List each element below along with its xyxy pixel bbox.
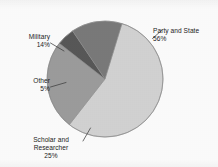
slice-label-scholar-and-researcher-line2: Researcher: [20, 144, 82, 152]
slice-label-military-value: 14%: [4, 41, 50, 49]
slice-label-other: Other 5%: [4, 77, 50, 93]
slice-label-scholar-and-researcher-line1: Scholar and: [33, 136, 69, 143]
slice-label-scholar-and-researcher-value: 25%: [20, 152, 82, 160]
slice-label-party-and-state-name: Party and State: [153, 27, 199, 34]
slice-label-party-and-state: Party and State 56%: [153, 27, 199, 43]
slice-label-military-name: Military: [29, 33, 50, 40]
pie-slices-group: [47, 21, 163, 137]
slice-label-military: Military 14%: [4, 33, 50, 49]
slice-label-other-value: 5%: [4, 85, 50, 93]
slice-label-party-and-state-value: 56%: [153, 35, 199, 43]
slice-label-scholar-and-researcher: Scholar and Researcher 25%: [20, 136, 82, 161]
slice-label-other-name: Other: [33, 77, 50, 84]
pie-chart: Party and State 56% Military 14% Other 5…: [0, 0, 218, 167]
